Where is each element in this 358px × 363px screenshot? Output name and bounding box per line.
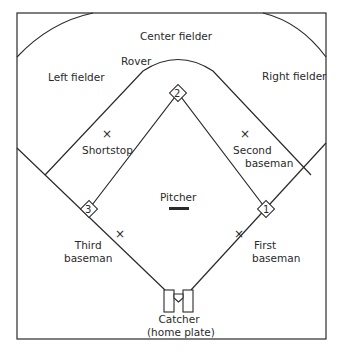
base-third-number: 3	[85, 203, 91, 216]
label-second-baseman-line1: Second	[233, 144, 293, 157]
field-diagram	[0, 0, 358, 363]
marker-second-baseman: ×	[240, 128, 250, 140]
label-first-baseman-line1: First	[252, 239, 300, 252]
base-second-number: 2	[174, 87, 180, 100]
label-center-fielder: Center fielder	[140, 30, 212, 43]
label-rover: Rover	[121, 55, 151, 68]
label-third-baseman-line1: Third	[64, 239, 112, 252]
label-shortstop: Shortstop	[82, 144, 133, 157]
label-pitcher: Pitcher	[160, 191, 196, 204]
label-left-fielder: Left fielder	[48, 71, 105, 84]
marker-first-baseman: ×	[234, 228, 244, 240]
marker-shortstop: ×	[102, 128, 112, 140]
label-catcher-line1: Catcher	[147, 313, 211, 326]
label-first-baseman: First baseman	[252, 239, 300, 265]
label-right-fielder: Right fielder	[262, 70, 326, 83]
label-catcher: Catcher (home plate)	[147, 313, 211, 339]
home-plate	[174, 294, 183, 302]
label-third-baseman: Third baseman	[64, 239, 112, 265]
label-third-baseman-line2: baseman	[64, 252, 112, 265]
label-second-baseman-line2: baseman	[233, 157, 293, 170]
label-catcher-line2: (home plate)	[147, 326, 211, 339]
marker-third-baseman: ×	[115, 228, 125, 240]
label-first-baseman-line2: baseman	[252, 252, 300, 265]
label-second-baseman: Second baseman	[233, 144, 293, 170]
batter-box-left	[164, 290, 174, 312]
batter-box-right	[183, 290, 193, 312]
left-foul-line	[17, 148, 165, 290]
base-first-number: 1	[263, 203, 269, 216]
pitcher-rubber	[169, 207, 189, 210]
